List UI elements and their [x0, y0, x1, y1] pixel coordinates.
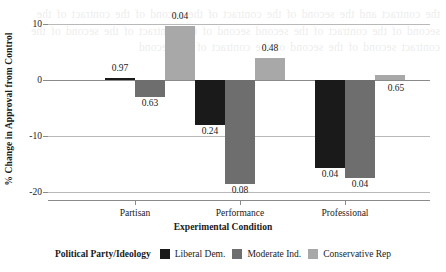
- value-label-professional-conservative-rep: 0.65: [388, 83, 405, 93]
- y-tick-mark-10: [43, 24, 48, 25]
- x-axis-line: [48, 200, 430, 201]
- bar-partisan-liberal-dem: [105, 78, 135, 80]
- value-label-performance-moderate-ind: 0.08: [232, 185, 249, 195]
- y-tick-label-10: 10: [33, 19, 43, 29]
- value-label-partisan-conservative-rep: 0.04: [172, 11, 189, 21]
- x-tick-mark-performance: [240, 201, 241, 205]
- plot-area: 10 0 -10 -20 0.97 0.63 0.04 0.24 0.08: [48, 18, 430, 200]
- x-tick-mark-professional: [345, 201, 346, 205]
- y-tick-mark-minus20: [43, 192, 48, 193]
- bar-partisan-conservative-rep: [165, 26, 195, 80]
- legend-label-moderate-ind: Moderate Ind.: [247, 249, 301, 259]
- legend: Political Party/Ideology Liberal Dem. Mo…: [0, 249, 446, 259]
- value-label-professional-moderate-ind: 0.04: [352, 179, 369, 189]
- y-tick-label-0: 0: [37, 75, 42, 85]
- bar-partisan-moderate-ind: [135, 80, 165, 97]
- value-label-performance-conservative-rep: 0.48: [262, 43, 279, 53]
- legend-title: Political Party/Ideology: [55, 249, 151, 259]
- legend-swatch-moderate-ind: [232, 249, 242, 259]
- bar-professional-moderate-ind: [345, 80, 375, 178]
- y-tick-mark-0: [43, 80, 48, 81]
- y-axis-title: % Change in Approval from Control: [2, 18, 16, 200]
- x-tick-mark-partisan: [135, 201, 136, 205]
- y-tick-mark-minus10: [43, 136, 48, 137]
- y-axis-title-text: % Change in Approval from Control: [4, 33, 14, 186]
- y-tick-label-minus20: -20: [29, 187, 42, 197]
- x-tick-label-performance: Performance: [216, 208, 265, 218]
- bar-professional-liberal-dem: [315, 80, 345, 168]
- legend-item-moderate-ind: Moderate Ind.: [232, 249, 301, 259]
- bar-performance-conservative-rep: [255, 58, 285, 80]
- value-label-partisan-moderate-ind: 0.63: [142, 98, 159, 108]
- value-label-partisan-liberal-dem: 0.97: [112, 63, 129, 73]
- x-tick-label-professional: Professional: [322, 208, 369, 218]
- y-tick-label-minus10: -10: [29, 131, 42, 141]
- bar-chart-figure: the contract and the second of the contr…: [0, 0, 446, 272]
- value-label-performance-liberal-dem: 0.24: [202, 126, 219, 136]
- value-label-professional-liberal-dem: 0.04: [322, 169, 339, 179]
- x-tick-label-partisan: Partisan: [120, 208, 151, 218]
- legend-swatch-liberal-dem: [160, 249, 170, 259]
- legend-swatch-conservative-rep: [308, 249, 318, 259]
- legend-item-conservative-rep: Conservative Rep: [308, 249, 391, 259]
- bar-performance-moderate-ind: [225, 80, 255, 184]
- legend-label-liberal-dem: Liberal Dem.: [175, 249, 226, 259]
- legend-label-conservative-rep: Conservative Rep: [323, 249, 391, 259]
- legend-item-liberal-dem: Liberal Dem.: [160, 249, 226, 259]
- gridline-10: 10: [48, 24, 430, 25]
- bar-performance-liberal-dem: [195, 80, 225, 125]
- bar-professional-conservative-rep: [375, 75, 405, 80]
- x-axis-title: Experimental Condition: [0, 222, 446, 232]
